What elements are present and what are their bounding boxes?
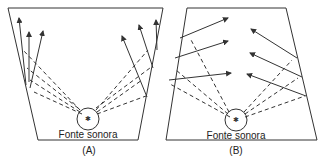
- caption-a: (A): [82, 145, 95, 156]
- reflected-rays-b: [169, 18, 306, 96]
- caption-b: (B): [229, 145, 242, 156]
- panel-b: [166, 8, 317, 140]
- sound-reflection-diagram: ✱ Fonte sonora (A) ✱ Fonte sonora (B): [0, 0, 327, 163]
- source-star-icon-a: ✱: [85, 115, 91, 123]
- source-label-b: Fonte sonora: [207, 130, 266, 141]
- reflected-rays-a: [19, 18, 157, 97]
- source-label-a: Fonte sonora: [59, 129, 118, 140]
- source-star-icon-b: ✱: [233, 116, 239, 124]
- incident-rays-a: [23, 50, 150, 114]
